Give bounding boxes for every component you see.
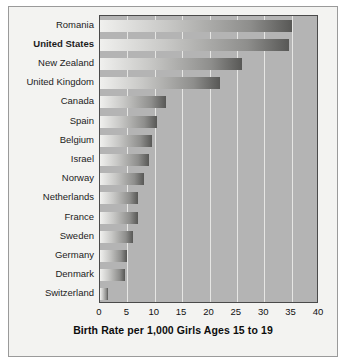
x-tick-35: 35 bbox=[279, 306, 303, 318]
category-label-romania: Romania bbox=[6, 19, 94, 31]
x-tick-15: 15 bbox=[169, 306, 193, 318]
bar bbox=[100, 58, 242, 70]
bar-row bbox=[100, 192, 318, 204]
bar-row bbox=[100, 96, 318, 108]
bar bbox=[100, 250, 127, 262]
bar bbox=[100, 135, 152, 147]
x-tick-40: 40 bbox=[306, 306, 330, 318]
bar bbox=[100, 212, 138, 224]
category-label-canada: Canada bbox=[6, 95, 94, 107]
bar bbox=[100, 77, 220, 89]
category-label-netherlands: Netherlands bbox=[6, 191, 94, 203]
bar bbox=[100, 173, 144, 185]
bar-row bbox=[100, 212, 318, 224]
bar bbox=[100, 116, 157, 128]
bar bbox=[100, 96, 166, 108]
bar-row bbox=[100, 135, 318, 147]
category-label-united-kingdom: United Kingdom bbox=[6, 76, 94, 88]
category-label-switzerland: Switzerland bbox=[6, 287, 94, 299]
bar-row bbox=[100, 231, 318, 243]
category-label-spain: Spain bbox=[6, 115, 94, 127]
bar-row bbox=[100, 77, 318, 89]
x-tick-5: 5 bbox=[114, 306, 138, 318]
x-tick-30: 30 bbox=[251, 306, 275, 318]
category-label-norway: Norway bbox=[6, 172, 94, 184]
x-tick-0: 0 bbox=[87, 306, 111, 318]
category-label-belgium: Belgium bbox=[6, 134, 94, 146]
bar bbox=[100, 288, 108, 300]
bar-row bbox=[100, 20, 318, 32]
bar bbox=[100, 39, 289, 51]
category-label-new-zealand: New Zealand bbox=[6, 57, 94, 69]
category-label-germany: Germany bbox=[6, 249, 94, 261]
category-label-denmark: Denmark bbox=[6, 268, 94, 280]
chart-figure: RomaniaUnited StatesNew ZealandUnited Ki… bbox=[0, 0, 346, 364]
bar-row bbox=[100, 250, 318, 262]
plot-area bbox=[99, 15, 318, 303]
bar-row bbox=[100, 39, 318, 51]
bar-row bbox=[100, 269, 318, 281]
bar-row bbox=[100, 288, 318, 300]
bar bbox=[100, 231, 133, 243]
bar-row bbox=[100, 154, 318, 166]
x-tick-10: 10 bbox=[142, 306, 166, 318]
category-label-france: France bbox=[6, 211, 94, 223]
bar bbox=[100, 269, 125, 281]
category-label-israel: Israel bbox=[6, 153, 94, 165]
category-label-united-states: United States bbox=[6, 38, 94, 50]
x-tick-25: 25 bbox=[224, 306, 248, 318]
bar bbox=[100, 20, 292, 32]
bar-row bbox=[100, 58, 318, 70]
bar bbox=[100, 192, 138, 204]
x-axis-title: Birth Rate per 1,000 Girls Ages 15 to 19 bbox=[0, 324, 346, 336]
category-label-sweden: Sweden bbox=[6, 230, 94, 242]
bar-row bbox=[100, 173, 318, 185]
bar-row bbox=[100, 116, 318, 128]
x-tick-20: 20 bbox=[197, 306, 221, 318]
bar bbox=[100, 154, 149, 166]
